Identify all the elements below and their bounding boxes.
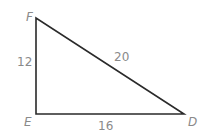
vertex-label-d: D: [188, 115, 197, 129]
vertex-label-f: F: [26, 10, 34, 24]
triangle-fed: [36, 18, 184, 114]
side-label-ed: 16: [98, 119, 113, 133]
side-label-fd: 20: [114, 50, 129, 64]
vertex-label-e: E: [24, 115, 32, 129]
triangle-diagram: F E D 12 20 16: [0, 0, 208, 136]
side-label-ef: 12: [17, 55, 32, 69]
